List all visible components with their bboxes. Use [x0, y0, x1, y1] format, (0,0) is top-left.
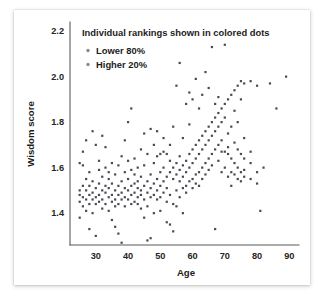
dot-marker-icon-higher: [86, 63, 89, 66]
data-point: [166, 153, 168, 155]
data-point: [85, 139, 87, 141]
data-point: [220, 171, 222, 173]
data-point: [208, 157, 210, 159]
data-point: [82, 185, 84, 187]
data-point: [224, 103, 226, 105]
data-point: [195, 78, 197, 80]
data-point: [114, 226, 116, 228]
data-point: [91, 192, 93, 194]
data-point: [233, 173, 235, 175]
data-point: [182, 176, 184, 178]
data-point: [133, 182, 135, 184]
data-point: [227, 153, 229, 155]
data-point: [101, 189, 103, 191]
data-point: [237, 85, 239, 87]
data-point: [162, 137, 164, 139]
data-point: [179, 180, 181, 182]
data-point: [121, 198, 123, 200]
data-point: [188, 123, 190, 125]
y-tick-label: 2.2: [51, 26, 64, 36]
x-tick-label-group: 30405060708090: [91, 251, 295, 261]
data-point: [230, 126, 232, 128]
data-point: [169, 160, 171, 162]
data-point: [153, 194, 155, 196]
data-point: [208, 126, 210, 128]
data-point: [101, 135, 103, 137]
data-point: [166, 176, 168, 178]
data-point: [140, 189, 142, 191]
data-point: [211, 153, 213, 155]
data-point: [224, 116, 226, 118]
data-point: [195, 144, 197, 146]
data-point: [137, 203, 139, 205]
data-point: [240, 180, 242, 182]
data-point: [121, 180, 123, 182]
y-tick-label: 1.6: [51, 163, 64, 173]
data-point: [169, 194, 171, 196]
data-point: [130, 185, 132, 187]
data-point: [137, 167, 139, 169]
data-point: [230, 171, 232, 173]
data-point: [204, 71, 206, 73]
data-point: [169, 144, 171, 146]
data-point: [233, 110, 235, 112]
data-point: [98, 169, 100, 171]
data-point: [124, 171, 126, 173]
y-tick-label-group: 1.41.61.82.02.2: [51, 26, 65, 218]
data-point: [198, 139, 200, 141]
data-point: [153, 144, 155, 146]
data-point: [172, 230, 174, 232]
data-point: [220, 121, 222, 123]
data-point: [240, 171, 242, 173]
data-point: [224, 44, 226, 46]
data-point: [104, 185, 106, 187]
data-point: [208, 87, 210, 89]
data-point: [227, 98, 229, 100]
x-tick-label: 30: [91, 251, 101, 261]
data-point: [179, 196, 181, 198]
data-point: [237, 148, 239, 150]
data-point: [227, 146, 229, 148]
data-point: [204, 130, 206, 132]
data-point: [124, 196, 126, 198]
y-tick-label: 2.0: [51, 72, 64, 82]
data-point: [156, 189, 158, 191]
data-point: [127, 189, 129, 191]
data-point: [159, 210, 161, 212]
x-tick-label: 80: [252, 251, 262, 261]
data-point: [224, 167, 226, 169]
data-point: [201, 94, 203, 96]
data-point: [182, 164, 184, 166]
scatter-plot: 1.41.61.82.02.2 30405060708090 Wisdom sc…: [14, 10, 310, 285]
data-point: [175, 85, 177, 87]
data-point: [117, 185, 119, 187]
data-point: [108, 178, 110, 180]
data-point: [275, 107, 277, 109]
chart-svg: 1.41.61.82.02.2 30405060708090 Wisdom sc…: [14, 10, 310, 285]
data-point: [201, 148, 203, 150]
data-point: [227, 132, 229, 134]
data-point: [250, 151, 252, 153]
data-point: [140, 176, 142, 178]
data-point: [143, 198, 145, 200]
data-point: [211, 135, 213, 137]
data-point: [130, 194, 132, 196]
data-point: [85, 198, 87, 200]
data-point: [150, 196, 152, 198]
data-point: [172, 203, 174, 205]
data-point: [133, 192, 135, 194]
data-point: [185, 103, 187, 105]
data-point: [108, 210, 110, 212]
data-point: [259, 210, 261, 212]
data-point: [101, 176, 103, 178]
data-point: [156, 155, 158, 157]
data-point: [111, 219, 113, 221]
data-point: [117, 194, 119, 196]
data-point: [182, 187, 184, 189]
data-point: [85, 210, 87, 212]
data-point: [172, 126, 174, 128]
data-point: [130, 169, 132, 171]
data-point: [130, 203, 132, 205]
data-point: [237, 167, 239, 169]
data-point: [111, 182, 113, 184]
